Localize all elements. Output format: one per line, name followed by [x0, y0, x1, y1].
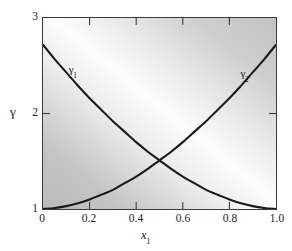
curve-layer [43, 18, 276, 209]
xtick-label-0: 0 [30, 213, 54, 225]
ytick-label-2: 2 [20, 107, 38, 119]
xtick-label-0-6: 0.6 [171, 213, 195, 225]
ytick-label-3: 3 [20, 11, 38, 23]
xtick-label-0-2: 0.2 [77, 213, 101, 225]
xtick-label-0-4: 0.4 [124, 213, 148, 225]
xtick-label-0-8: 0.8 [218, 213, 242, 225]
plot-area: γ1 γ2 [42, 17, 277, 210]
curve-label-gamma2: γ2 [240, 68, 249, 82]
y-axis-title: γ [10, 105, 16, 118]
axis-ticks [43, 18, 276, 209]
xtick-label-1-0: 1.0 [265, 213, 289, 225]
curve-label-gamma1: γ1 [69, 64, 78, 78]
activity-coefficient-chart: γ1 γ2 3 2 1 γ 0 0.2 0.4 0.6 0.8 1.0 x1 [0, 0, 292, 251]
x-axis-title: x1 [0, 229, 292, 244]
